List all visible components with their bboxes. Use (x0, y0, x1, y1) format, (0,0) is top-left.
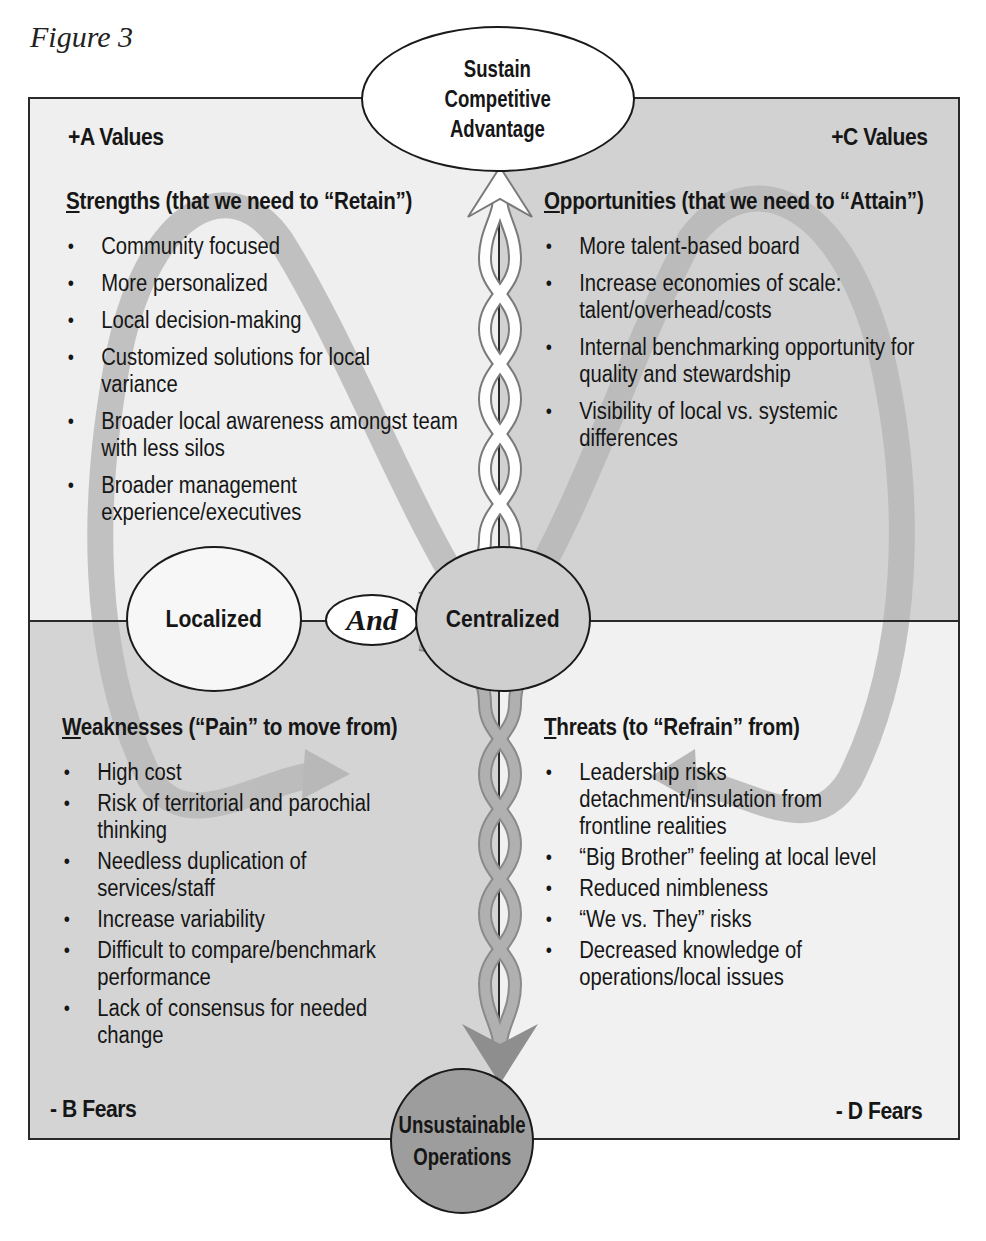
corner-label-d-fears: - D Fears (836, 1097, 922, 1125)
list-item: Community focused (66, 233, 453, 260)
threats-list: Leadership risks detachment/insulation f… (544, 759, 931, 995)
list-item: “Big Brother” feeling at local level (544, 844, 931, 871)
list-item: Internal benchmarking opportunity for qu… (544, 334, 949, 388)
opportunities-heading: Opportunities (that we need to “Attain”) (544, 187, 924, 215)
list-item: Decreased knowledge of operations/local … (544, 937, 843, 991)
node-localized: Localized (126, 546, 302, 692)
figure-label: Figure 3 (30, 20, 133, 54)
list-item: High cost (62, 759, 449, 786)
list-item: Lack of consensus for needed change (62, 995, 432, 1049)
list-item: Increase variability (62, 906, 449, 933)
list-item: Customized solutions for local variance (66, 344, 418, 398)
node-sustain-competitive-advantage: Sustain Competitive Advantage (361, 26, 635, 172)
corner-label-a-values: +A Values (68, 123, 164, 151)
opportunities-list: More talent-based board Increase economi… (544, 233, 931, 462)
corner-label-b-fears: - B Fears (50, 1095, 136, 1123)
list-item: Local decision-making (66, 307, 453, 334)
list-item: Needless duplication of services/staff (62, 848, 361, 902)
node-and: And (325, 594, 419, 646)
node-unsustainable-operations: Unsustainable Operations (390, 1068, 534, 1214)
list-item: More personalized (66, 270, 453, 297)
list-item: Risk of territorial and parochial thinki… (62, 790, 432, 844)
list-item: Broader management experience/executives (66, 472, 365, 526)
corner-label-c-values: +C Values (832, 123, 928, 151)
list-item: Visibility of local vs. systemic differe… (544, 398, 896, 452)
list-item: Broader local awareness amongst team wit… (66, 408, 471, 462)
list-item: Leadership risks detachment/insulation f… (544, 759, 870, 840)
list-item: More talent-based board (544, 233, 931, 260)
strengths-heading: Strengths (that we need to “Retain”) (66, 187, 412, 215)
list-item: “We vs. They” risks (544, 906, 931, 933)
list-item: Increase economies of scale: talent/over… (544, 270, 896, 324)
list-item: Difficult to compare/benchmark performan… (62, 937, 432, 991)
list-item: Reduced nimbleness (544, 875, 931, 902)
node-centralized: Centralized (415, 546, 591, 692)
weaknesses-heading: Weaknesses (“Pain” to move from) (62, 713, 397, 741)
threats-heading: Threats (to “Refrain” from) (544, 713, 800, 741)
weaknesses-list: High cost Risk of territorial and paroch… (62, 759, 449, 1053)
strengths-list: Community focused More personalized Loca… (66, 233, 453, 536)
